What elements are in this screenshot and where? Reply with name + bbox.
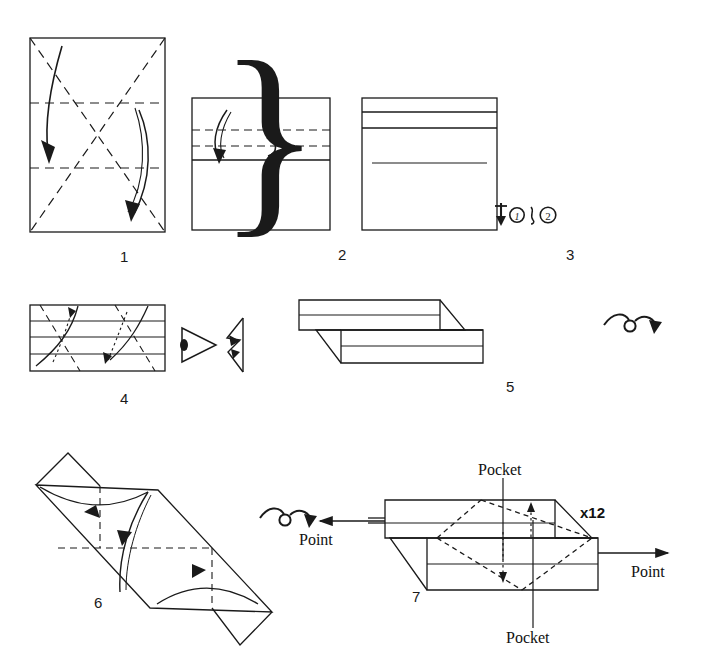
grouping-brace: }	[218, 28, 321, 243]
step-7-figure	[320, 478, 668, 628]
step-4-fold-curve-b	[110, 306, 148, 360]
turn-over-arrow-step6-icon	[260, 508, 317, 528]
turn-over-5-head	[649, 320, 662, 334]
repeat-circle-one-label: 1	[515, 211, 520, 222]
pocket-top-label: Pocket	[478, 461, 522, 479]
origami-diagram-sheet: 1 2	[0, 0, 703, 665]
push-here-icon	[227, 318, 243, 372]
step-5-upper-bar-end	[440, 300, 465, 330]
step-1-figure	[30, 38, 165, 232]
eye-pupil	[180, 339, 188, 351]
step-number-5: 5	[506, 378, 514, 395]
step-number-6: 6	[94, 594, 102, 611]
step-7-hidden-edge-a	[437, 500, 481, 538]
step-6-top-flap	[36, 453, 100, 486]
step-number-2: 2	[338, 246, 346, 263]
repeat-steps-symbol: 1 2	[495, 203, 556, 226]
fold-arrow-bottom-head	[125, 200, 140, 222]
push-icon-head-upper	[229, 335, 240, 346]
repeat-circle-two-label: 2	[545, 210, 551, 222]
step-4-crease-b	[115, 305, 155, 371]
step-4-outline	[30, 305, 165, 371]
pocket-arrow-down-head	[499, 572, 507, 583]
fold-arrow-top-to-center	[47, 46, 62, 152]
turn-over-arrow-step5-icon	[604, 315, 662, 334]
step-4-crease-a	[40, 305, 80, 371]
step-3-outline	[362, 98, 497, 230]
turn-over-6-head	[304, 514, 317, 528]
pocket-bottom-label: Pocket	[506, 629, 550, 647]
step-5-lower-bar-end	[316, 330, 341, 363]
step-6-arrow-1-path	[40, 487, 148, 505]
quantity-label: x12	[580, 504, 605, 521]
step-7-upper-bar	[385, 500, 555, 538]
pocket-arrow-up-head	[527, 502, 535, 512]
step-6-figure	[36, 453, 272, 645]
step-number-1: 1	[120, 248, 128, 265]
step-6-bottom-flap	[212, 608, 272, 645]
fold-arrow-top-head	[41, 140, 55, 164]
turn-over-6-loop	[279, 514, 290, 525]
step-6-arrow-1-head	[84, 505, 100, 518]
step-5-figure	[299, 300, 483, 363]
step-7-hidden-edge-b	[481, 500, 592, 538]
push-icon-zigzag	[227, 318, 243, 372]
step-7-lower-bar-end	[390, 538, 427, 590]
step-6-arrow-3-path	[157, 588, 258, 604]
step-number-4: 4	[120, 390, 128, 407]
point-left-label: Point	[299, 531, 333, 549]
repeat-and-glyph	[531, 207, 534, 224]
step-3-figure: 1 2	[362, 98, 556, 230]
view-from-here-eye-icon	[180, 328, 216, 362]
step-number-3: 3	[566, 246, 574, 263]
step-number-7: 7	[412, 588, 420, 605]
fold-arrow-bottom-to-center-a	[134, 110, 148, 214]
fold-arrow-bottom-to-center-b	[128, 108, 143, 212]
step-4-figure	[30, 305, 165, 371]
step-6-arrow-3-head	[192, 564, 206, 578]
point-right-label: Point	[631, 563, 665, 581]
diagram-canvas: 1 2	[0, 0, 703, 665]
turn-over-5-loop	[624, 320, 635, 331]
